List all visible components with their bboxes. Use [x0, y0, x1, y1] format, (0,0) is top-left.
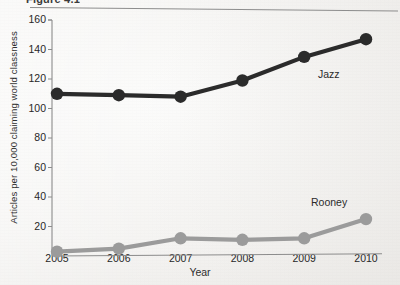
series-line-rooney [57, 219, 366, 252]
data-point-jazz [174, 91, 186, 103]
series-annotation-rooney: Rooney [311, 196, 347, 208]
chart-plot-area [0, 0, 400, 285]
data-point-rooney [51, 245, 63, 257]
x-axis-line [52, 254, 382, 256]
data-point-jazz [113, 89, 125, 101]
data-point-jazz [236, 74, 248, 86]
data-point-rooney [113, 242, 125, 254]
data-point-jazz [298, 51, 310, 63]
data-point-rooney [360, 213, 372, 225]
data-point-rooney [236, 234, 248, 246]
data-point-rooney [298, 232, 310, 244]
data-point-rooney [174, 232, 186, 244]
series-annotation-jazz: Jazz [318, 68, 340, 80]
data-point-jazz [51, 88, 63, 100]
data-point-jazz [360, 33, 372, 45]
